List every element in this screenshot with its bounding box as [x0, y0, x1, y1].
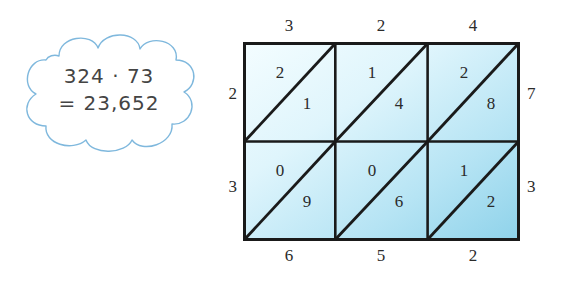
thought-cloud-callout: 324 · 73 = 23,652 [14, 22, 204, 158]
cell-r0c1-upper-digit: 1 [363, 63, 381, 83]
lattice-grid: 2 1 1 4 2 8 0 9 0 6 1 2 [243, 42, 520, 241]
top-label-col-2: 4 [463, 16, 483, 36]
cell-r0c2-lower-digit: 8 [482, 94, 500, 114]
cell-r1c0-lower-digit: 9 [298, 192, 316, 212]
left-label-row-0: 2 [219, 84, 237, 104]
cell-r1c1-upper-digit: 0 [363, 161, 381, 181]
cell-r1c2-lower-digit: 2 [482, 192, 500, 212]
cell-r0c2-upper-digit: 2 [455, 63, 473, 83]
top-label-col-0: 3 [279, 16, 299, 36]
top-label-col-1: 2 [371, 16, 391, 36]
cell-r0c0-lower-digit: 1 [298, 94, 316, 114]
cell-r1c1-lower-digit: 6 [390, 192, 408, 212]
right-label-row-0: 7 [527, 84, 545, 104]
bottom-label-col-2: 2 [463, 246, 483, 266]
cell-r0c1-lower-digit: 4 [390, 94, 408, 114]
thought-cloud-shape [14, 22, 204, 158]
bottom-label-col-0: 6 [279, 246, 299, 266]
bottom-label-col-1: 5 [371, 246, 391, 266]
right-label-row-1: 3 [527, 177, 545, 197]
cell-r1c0-upper-digit: 0 [271, 161, 289, 181]
cell-r0c0-upper-digit: 2 [271, 63, 289, 83]
left-label-row-1: 3 [219, 177, 237, 197]
cell-r1c2-upper-digit: 1 [455, 161, 473, 181]
figure-canvas: 324 · 73 = 23,652 [0, 0, 562, 285]
